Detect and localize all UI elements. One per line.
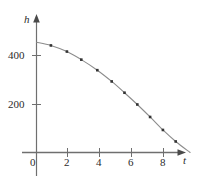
data-point-marker (162, 129, 165, 132)
y-tick-label-200: 200 (8, 99, 25, 110)
data-point-markers (50, 44, 177, 143)
data-point-marker (96, 69, 99, 72)
x-axis-label: t (183, 155, 186, 166)
height-vs-time-figure: h t 0 400 200 2 4 6 8 (0, 0, 202, 184)
x-tick-label-8: 8 (160, 157, 166, 168)
data-point-marker (123, 91, 126, 94)
data-point-marker (174, 140, 177, 143)
data-point-marker (149, 116, 152, 119)
data-point-marker (80, 58, 83, 61)
data-point-marker (50, 44, 53, 47)
data-point-marker (136, 103, 139, 106)
data-curve (37, 42, 191, 152)
data-point-marker (66, 50, 69, 53)
x-tick-label-6: 6 (128, 157, 134, 168)
y-tick-label-400: 400 (8, 50, 25, 61)
data-point-marker (110, 80, 113, 83)
x-tick-label-2: 2 (64, 157, 70, 168)
origin-tick-label: 0 (30, 157, 36, 168)
y-axis-label: h (24, 14, 30, 25)
x-tick-label-4: 4 (96, 157, 102, 168)
y-axis-arrowhead (33, 14, 40, 23)
